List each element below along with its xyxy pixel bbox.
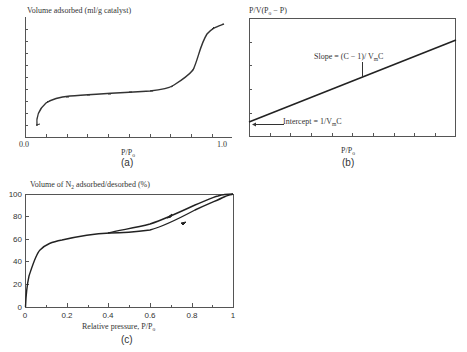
panel-c-caption: (c) — [121, 334, 133, 345]
panel-b-x-ticks — [271, 133, 436, 136]
panel-c-desorption-arrow-icon — [167, 214, 172, 218]
panel-c-xtick-0.8: 0.8 — [186, 311, 198, 320]
panel-c-xtick-0.6: 0.6 — [144, 311, 156, 320]
panel-c-xtick-0: 0 — [23, 311, 28, 320]
panel-c-desorption-curve — [108, 194, 233, 233]
panel-c-x-ticks — [47, 303, 213, 307]
panel-a-ylabel: Volume adsorbed (ml/g catalyst) — [27, 6, 131, 15]
panel-c-ylabel: Volume of N2 adsorbed/desorbed (%) — [30, 180, 150, 190]
panel-b-caption: (b) — [342, 157, 354, 168]
panel-b-xlabel: P/Po — [341, 146, 355, 156]
panel-c-xtick-1: 1 — [231, 311, 236, 320]
panel-c-adsorption-arrow-icon — [181, 222, 186, 225]
panel-c-ytick-40: 40 — [13, 257, 22, 266]
panel-a-x-ticks — [47, 134, 213, 137]
panel-b-plot-frame — [250, 19, 456, 137]
panel-a-caption: (a) — [121, 157, 133, 168]
panel-a-isotherm-curve — [37, 24, 224, 126]
panel-c-xtick-0.4: 0.4 — [102, 311, 114, 320]
panel-c-ytick-60: 60 — [13, 235, 22, 244]
panel-c-ytick-100: 100 — [9, 190, 23, 199]
panel-b-intercept-arrowhead — [252, 123, 256, 127]
panel-a-xtick-1: 1.0 — [217, 140, 227, 149]
panel-c-ytick-20: 20 — [13, 280, 22, 289]
panel-b-ylabel: P/V(Po − P) — [249, 6, 287, 16]
panel-c-xtick-0.2: 0.2 — [61, 311, 73, 320]
panel-a: Volume adsorbed (ml/g catalyst) — [19, 6, 232, 168]
panel-c-plot-frame — [26, 195, 234, 308]
panel-c-adsorption-curve — [26, 194, 234, 307]
panel-a-xtick-0: 0.0 — [19, 140, 29, 149]
panel-c: Volume of N2 adsorbed/desorbed (%) 0 20 … — [9, 180, 236, 345]
panel-b: P/V(Po − P) Slope = (C − 1)/ VmC Interce… — [249, 6, 456, 168]
figure: Volume adsorbed (ml/g catalyst) — [0, 0, 467, 352]
panel-b-intercept-label: Intercept = 1/VmC — [283, 117, 342, 127]
panel-c-ytick-80: 80 — [13, 212, 22, 221]
panel-c-xlabel: Relative pressure, P/Po — [82, 322, 155, 332]
panel-b-slope-label: Slope = (C − 1)/ VmC — [314, 52, 383, 62]
